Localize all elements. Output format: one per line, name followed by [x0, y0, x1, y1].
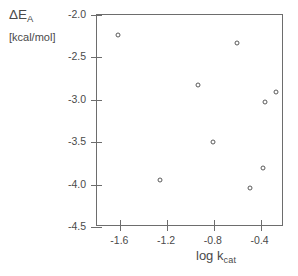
y-axis-title: ΔEA	[9, 8, 34, 26]
data-point	[158, 178, 163, 183]
x-axis-tick-inner	[120, 220, 121, 225]
y-axis-tick-label: -3.0	[44, 94, 86, 105]
y-axis-tick-label: -2.5	[44, 51, 86, 62]
x-axis-tick-label: -0.8	[193, 235, 233, 246]
y-axis-tick-inner	[97, 57, 102, 58]
data-point	[235, 40, 240, 45]
x-axis-tick-inner	[214, 220, 215, 225]
y-axis-title-subscript: A	[27, 13, 34, 24]
y-axis-tick-inner	[97, 100, 102, 101]
data-point	[195, 83, 200, 88]
data-point	[263, 100, 268, 105]
x-axis-tick	[261, 225, 262, 231]
x-axis-tick	[214, 225, 215, 231]
y-axis-tick-inner	[97, 15, 102, 16]
y-axis-units-label: [kcal/mol]	[9, 31, 55, 43]
x-axis-tick	[167, 225, 168, 231]
data-point	[210, 140, 215, 145]
data-point	[273, 90, 278, 95]
y-axis-tick-inner	[97, 185, 102, 186]
data-point	[248, 185, 253, 190]
x-axis-tick-label: -0.4	[240, 235, 280, 246]
y-axis-tick-label: -4.5	[44, 221, 86, 232]
data-point	[116, 33, 121, 38]
x-axis-title-subscript: cat	[223, 255, 236, 265]
x-axis-tick-inner	[261, 220, 262, 225]
y-axis-tick-label: -2.0	[44, 9, 86, 20]
x-axis-title-base: log k	[196, 248, 223, 263]
scatter-chart-figure: ΔEA [kcal/mol] log kcat -2.0-2.5-3.0-3.5…	[0, 0, 298, 276]
data-point	[261, 166, 266, 171]
x-axis-tick-inner	[167, 220, 168, 225]
y-axis-tick-inner	[97, 227, 102, 228]
x-axis-tick-label: -1.6	[99, 235, 139, 246]
y-axis-tick-inner	[97, 142, 102, 143]
x-axis-tick-label: -1.2	[146, 235, 186, 246]
x-axis-title: log kcat	[196, 249, 236, 267]
y-axis-title-base: ΔE	[9, 7, 27, 22]
y-axis-tick-label: -4.0	[44, 179, 86, 190]
plot-area	[96, 14, 283, 226]
y-axis-tick-label: -3.5	[44, 136, 86, 147]
x-axis-tick	[120, 225, 121, 231]
